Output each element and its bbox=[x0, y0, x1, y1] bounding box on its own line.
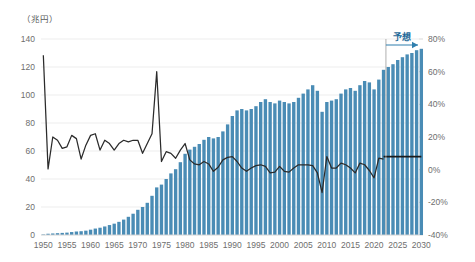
bar bbox=[155, 187, 158, 235]
bar bbox=[358, 85, 361, 235]
left-axis-tick: 100 bbox=[21, 90, 35, 100]
bar bbox=[103, 226, 106, 235]
bar bbox=[250, 109, 253, 235]
bar bbox=[183, 154, 186, 235]
bar bbox=[89, 230, 92, 235]
bar bbox=[141, 207, 144, 235]
bar bbox=[254, 106, 257, 235]
bar bbox=[415, 50, 418, 235]
forecast-arrow-head bbox=[412, 42, 418, 48]
x-axis-tick: 2015 bbox=[341, 240, 360, 250]
right-axis-tick: -20% bbox=[428, 197, 448, 207]
left-axis-tick: 60 bbox=[26, 146, 36, 156]
bar bbox=[363, 81, 366, 235]
x-axis-tick: 1965 bbox=[105, 240, 124, 250]
left-axis-labels: 020406080100120140 bbox=[21, 34, 35, 240]
right-axis-tick: 60% bbox=[428, 67, 445, 77]
bar bbox=[311, 85, 314, 235]
bar bbox=[235, 110, 238, 235]
bar bbox=[98, 228, 101, 235]
bar bbox=[146, 203, 149, 235]
bar bbox=[179, 162, 182, 235]
bar bbox=[420, 49, 423, 235]
bar bbox=[259, 102, 262, 235]
bar bbox=[169, 173, 172, 235]
bar bbox=[287, 103, 290, 235]
x-axis-tick: 2010 bbox=[317, 240, 336, 250]
bar bbox=[320, 112, 323, 235]
x-axis-tick: 2030 bbox=[412, 240, 431, 250]
bar bbox=[212, 138, 215, 235]
x-axis-tick: 2005 bbox=[294, 240, 313, 250]
bar bbox=[150, 196, 153, 235]
x-axis-tick: 1980 bbox=[176, 240, 195, 250]
right-axis-labels: -40%-20%0%20%40%60%80% bbox=[419, 34, 448, 240]
bar bbox=[117, 222, 120, 235]
bar bbox=[372, 89, 375, 235]
bar bbox=[136, 210, 139, 235]
bar bbox=[396, 60, 399, 235]
bar bbox=[368, 82, 371, 235]
x-axis-tick: 1990 bbox=[223, 240, 242, 250]
bar bbox=[297, 98, 300, 235]
left-axis-tick: 120 bbox=[21, 62, 35, 72]
bar bbox=[127, 217, 130, 235]
right-axis-tick: 40% bbox=[428, 99, 445, 109]
left-unit-label: （兆円） bbox=[22, 14, 58, 24]
right-axis-tick: 80% bbox=[428, 34, 445, 44]
bar bbox=[382, 70, 385, 235]
bar bbox=[216, 137, 219, 235]
left-axis-tick: 140 bbox=[21, 34, 35, 44]
left-axis-tick: 0 bbox=[30, 230, 35, 240]
x-axis-tick: 1975 bbox=[152, 240, 171, 250]
bar bbox=[122, 220, 125, 235]
bar bbox=[231, 116, 234, 235]
bar bbox=[207, 137, 210, 235]
bar bbox=[131, 214, 134, 235]
bar bbox=[245, 110, 248, 235]
right-axis-tick: 0% bbox=[428, 165, 441, 175]
bar bbox=[306, 89, 309, 235]
bar bbox=[283, 102, 286, 235]
bar bbox=[202, 140, 205, 235]
bar bbox=[405, 54, 408, 235]
bar bbox=[410, 53, 413, 235]
bar bbox=[273, 103, 276, 235]
x-axis-tick: 2020 bbox=[365, 240, 384, 250]
bar bbox=[94, 229, 97, 235]
right-axis-tick: -40% bbox=[428, 230, 448, 240]
bar bbox=[316, 91, 319, 235]
right-axis-tick: 20% bbox=[428, 132, 445, 142]
bar bbox=[75, 232, 78, 236]
x-axis-labels: 1950195519601965197019751980198519901995… bbox=[34, 235, 431, 250]
bar bbox=[240, 109, 243, 235]
bar bbox=[387, 67, 390, 235]
bar bbox=[108, 225, 111, 235]
bar bbox=[193, 147, 196, 235]
x-axis-tick: 2000 bbox=[270, 240, 289, 250]
x-axis-tick: 1970 bbox=[128, 240, 147, 250]
left-axis-tick: 80 bbox=[26, 118, 36, 128]
x-axis-tick: 1985 bbox=[199, 240, 218, 250]
bar bbox=[160, 185, 163, 235]
bar bbox=[113, 224, 116, 235]
bar bbox=[198, 144, 201, 235]
x-axis-tick: 2025 bbox=[388, 240, 407, 250]
left-axis-tick: 20 bbox=[26, 202, 36, 212]
x-axis-tick: 1960 bbox=[81, 240, 100, 250]
bar bbox=[221, 131, 224, 235]
x-axis-tick: 1995 bbox=[246, 240, 265, 250]
bar bbox=[391, 64, 394, 235]
bar bbox=[188, 150, 191, 235]
bar bbox=[84, 231, 87, 235]
bar bbox=[354, 91, 357, 235]
gridlines-group bbox=[41, 39, 419, 235]
bar bbox=[165, 179, 168, 235]
bar bbox=[268, 102, 271, 235]
left-axis-tick: 40 bbox=[26, 174, 36, 184]
bar bbox=[377, 80, 380, 235]
bar bbox=[79, 231, 82, 235]
combo-chart: 020406080100120140 -40%-20%0%20%40%60%80… bbox=[0, 0, 475, 262]
bar bbox=[226, 124, 229, 235]
bar bbox=[174, 169, 177, 235]
